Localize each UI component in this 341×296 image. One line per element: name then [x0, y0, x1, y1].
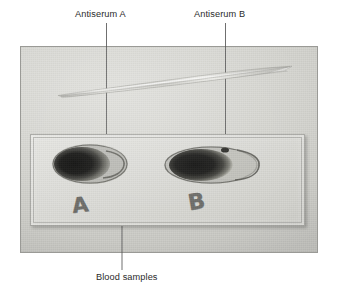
label-antiserum-b: Antiserum B — [194, 9, 245, 20]
blood-drop-a — [51, 143, 129, 185]
label-blood-samples: Blood samples — [96, 272, 158, 283]
label-antiserum-a: Antiserum A — [75, 9, 126, 20]
blood-typing-figure: A B Antiserum A Antiserum B Blood sample… — [0, 0, 341, 296]
lancet-needle-icon — [56, 65, 296, 99]
slide-photograph: A B — [20, 46, 318, 253]
blood-drop-b — [163, 144, 263, 186]
slide-mark-a: A — [71, 192, 90, 218]
glass-microscope-slide: A B — [30, 134, 305, 226]
